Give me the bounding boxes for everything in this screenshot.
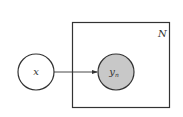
node-yn-label-subscript: n [115, 71, 119, 78]
node-yn: yn [98, 54, 134, 90]
graphical-model-diagram: N x yn [0, 0, 183, 117]
plate-label: N [157, 28, 168, 39]
node-x: x [18, 54, 54, 90]
node-x-label: x [33, 66, 39, 77]
